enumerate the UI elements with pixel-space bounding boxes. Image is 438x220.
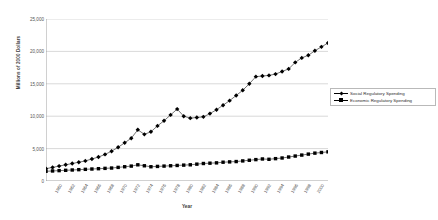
data-point-marker [307, 152, 310, 155]
data-point-marker [64, 169, 67, 172]
y-tick-label: 20,000 [4, 49, 44, 54]
data-point-marker [143, 164, 146, 167]
y-tick-label: 15,000 [4, 81, 44, 86]
data-point-marker [109, 149, 113, 153]
x-tick-label: 1966 [93, 183, 102, 194]
data-point-marker [319, 45, 323, 49]
y-tick-label: 10,000 [4, 114, 44, 119]
x-tick-label: 1972 [132, 183, 141, 194]
data-point-marker [162, 164, 165, 167]
data-point-marker [175, 164, 178, 167]
data-point-marker [221, 161, 224, 164]
x-tick-label: 1986 [224, 183, 233, 194]
data-point-marker [195, 162, 198, 165]
data-point-marker [71, 168, 74, 171]
data-point-marker [254, 158, 257, 161]
data-point-marker [273, 72, 277, 76]
x-tick-label: 1982 [198, 183, 207, 194]
data-point-marker [84, 168, 87, 171]
x-tick-label: 1996 [289, 183, 298, 194]
data-point-marker [267, 158, 270, 161]
data-point-marker [63, 163, 67, 167]
data-point-marker [221, 103, 225, 107]
data-point-marker [110, 166, 113, 169]
data-point-marker [142, 132, 146, 136]
data-point-marker [260, 74, 264, 78]
data-point-marker [326, 41, 328, 45]
data-point-marker [116, 145, 120, 149]
data-point-marker [57, 164, 61, 168]
data-point-marker [46, 170, 48, 173]
data-point-marker [201, 115, 205, 119]
x-tick-label: 1998 [303, 183, 312, 194]
data-point-marker [116, 166, 119, 169]
data-point-marker [83, 159, 87, 163]
chart-figure: Millions of 2000 Dollars 05,00010,00015,… [0, 0, 438, 220]
x-tick-label: 1980 [185, 183, 194, 194]
x-axis-title: Year [0, 204, 374, 209]
data-point-marker [103, 152, 107, 156]
x-tick-label: 1964 [80, 183, 89, 194]
data-point-marker [300, 56, 304, 60]
data-point-marker [90, 167, 93, 170]
data-point-marker [248, 159, 251, 162]
data-point-marker [300, 153, 303, 156]
series-line [46, 43, 328, 169]
data-point-marker [182, 163, 185, 166]
data-point-marker [320, 151, 323, 154]
data-point-marker [149, 165, 152, 168]
x-tick-label: 1992 [263, 183, 272, 194]
data-point-marker [136, 163, 139, 166]
y-tick-label: 25,000 [4, 17, 44, 22]
data-point-marker [96, 155, 100, 159]
y-tick-label: 5,000 [4, 146, 44, 151]
data-point-marker [123, 165, 126, 168]
x-tick-label: 1976 [158, 183, 167, 194]
legend-label-social: Social Regulatory Spending [350, 91, 405, 96]
data-point-marker [313, 49, 317, 53]
x-tick-label: 1970 [119, 183, 128, 194]
legend-marker-diamond-icon [334, 91, 348, 97]
data-point-marker [123, 141, 127, 145]
data-point-marker [261, 157, 264, 160]
data-point-marker [267, 73, 271, 77]
legend-marker-square-icon [334, 97, 348, 103]
legend-label-economic: Economic Regulatory Spending [350, 98, 412, 103]
plot-area [46, 19, 328, 181]
legend-item-economic[interactable]: Economic Regulatory Spending [332, 97, 434, 104]
data-point-marker [326, 150, 328, 153]
data-point-marker [280, 156, 283, 159]
chart-legend: Social Regulatory Spending Economic Regu… [330, 88, 436, 106]
data-point-marker [241, 159, 244, 162]
data-point-marker [51, 169, 54, 172]
data-point-marker [189, 163, 192, 166]
data-point-marker [287, 155, 290, 158]
data-point-marker [57, 169, 60, 172]
data-point-marker [130, 164, 133, 167]
x-tick-label: 1962 [67, 183, 76, 194]
data-point-marker [90, 157, 94, 161]
x-tick-label: 1984 [211, 183, 220, 194]
data-point-marker [195, 115, 199, 119]
x-tick-label: 2000 [316, 183, 325, 194]
x-tick-label: 1994 [276, 183, 285, 194]
series-line [46, 152, 328, 171]
data-point-marker [306, 53, 310, 57]
data-point-marker [294, 154, 297, 157]
x-tick-label: 1978 [171, 183, 180, 194]
data-point-marker [202, 162, 205, 165]
data-point-marker [313, 151, 316, 154]
data-point-marker [77, 160, 81, 164]
data-point-marker [77, 168, 80, 171]
data-point-marker [103, 167, 106, 170]
data-point-marker [280, 69, 284, 73]
data-point-marker [70, 161, 74, 165]
data-point-marker [50, 165, 54, 169]
data-point-marker [188, 116, 192, 120]
x-tick-label: 1988 [237, 183, 246, 194]
x-tick-label: 1974 [145, 183, 154, 194]
data-point-marker [215, 161, 218, 164]
data-point-marker [274, 157, 277, 160]
x-tick-label: 1960 [53, 183, 62, 194]
data-point-marker [97, 167, 100, 170]
